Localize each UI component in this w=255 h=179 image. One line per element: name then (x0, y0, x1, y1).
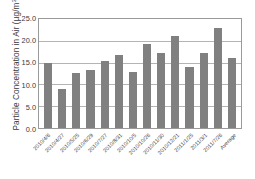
x-label-slot: 2010/5/25 (69, 130, 83, 178)
bar[interactable] (44, 63, 52, 128)
bar-slot (98, 19, 112, 128)
bar-slot (112, 19, 126, 128)
bar[interactable] (185, 67, 193, 128)
y-axis-title-exponent: 3 (11, 0, 17, 3)
y-tick-label: 5.0 (14, 102, 36, 111)
bar[interactable] (101, 61, 109, 128)
x-label-slot: 2010/6/29 (83, 130, 97, 178)
bar[interactable] (58, 89, 66, 128)
bar[interactable] (143, 44, 151, 128)
bar[interactable] (129, 72, 137, 128)
bar-slot (168, 19, 182, 128)
bar[interactable] (86, 70, 94, 128)
x-label-slot: 2010/12/21 (169, 130, 183, 178)
bar-slot (55, 19, 69, 128)
bar-slot (69, 19, 83, 128)
bars-layer (39, 19, 241, 128)
y-tick-label: 0.0 (14, 125, 36, 134)
bar-slot (154, 19, 168, 128)
bar[interactable] (171, 36, 179, 128)
y-tick-label: 15.0 (14, 58, 36, 67)
bar[interactable] (72, 73, 80, 128)
x-label-slot: 2010/7/27 (97, 130, 111, 178)
bar[interactable] (157, 53, 165, 128)
bar-slot (197, 19, 211, 128)
bar-slot (83, 19, 97, 128)
x-label-slot: 2011/1/25 (183, 130, 197, 178)
x-label-slot: Average (226, 130, 240, 178)
bar-slot (182, 19, 196, 128)
bar-slot (126, 19, 140, 128)
y-tick-label: 20.0 (14, 36, 36, 45)
plot-area (38, 18, 242, 129)
x-label-slot: 2011/3/1 (197, 130, 211, 178)
bar[interactable] (200, 53, 208, 128)
bar-chart-figure: Particle Concentration in Air (µg/m3) 0.… (0, 0, 255, 179)
bar-slot (140, 19, 154, 128)
x-label-slot: 2010/4/27 (54, 130, 68, 178)
bar-slot (41, 19, 55, 128)
y-axis-tick-labels: 0.05.010.015.020.025.0 (14, 18, 36, 129)
bar[interactable] (228, 58, 236, 128)
x-label-slot: 2010/4/6 (40, 130, 54, 178)
bar-slot (225, 19, 239, 128)
x-axis-tick-labels: 2010/4/62010/4/272010/5/252010/6/292010/… (38, 130, 242, 178)
x-label-slot: 2010/8/31 (111, 130, 125, 178)
bar[interactable] (115, 55, 123, 128)
x-label-slot: 2011/7/26 (211, 130, 225, 178)
y-tick-label: 10.0 (14, 80, 36, 89)
y-tick-label: 25.0 (14, 14, 36, 23)
bar[interactable] (214, 28, 222, 128)
bar-slot (211, 19, 225, 128)
